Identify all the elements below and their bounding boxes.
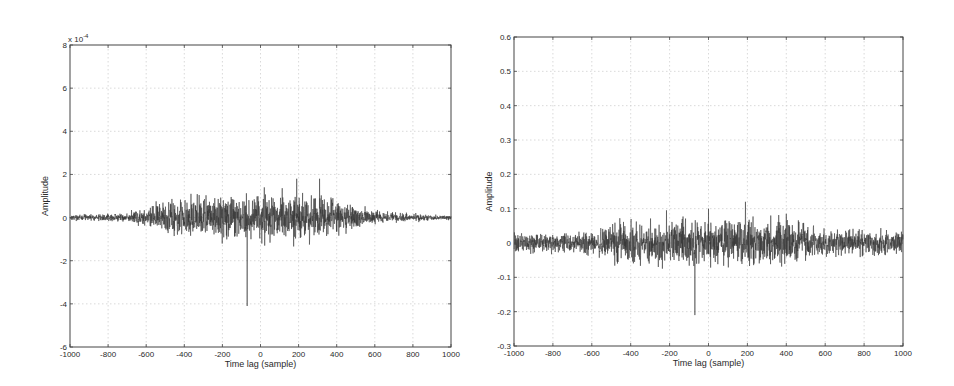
right-x-axis-label: Time lag (sample) — [673, 358, 745, 368]
x-tick-label: 0 — [258, 350, 263, 359]
x-tick-label: -400 — [623, 349, 640, 358]
x-tick-label: 0 — [706, 349, 711, 358]
x-tick-label: -200 — [662, 349, 679, 358]
y-tick-label: 0.2 — [500, 170, 512, 179]
y-tick-label: 6 — [63, 84, 68, 93]
left-plot: -1000-800-600-400-20002004006008001000-6… — [40, 33, 460, 369]
x-tick-label: -600 — [584, 349, 601, 358]
y-tick-label: 2 — [63, 170, 68, 179]
x-tick-label: -200 — [214, 350, 231, 359]
figure-canvas: -1000-800-600-400-20002004006008001000-6… — [0, 0, 954, 386]
right-axes-box — [514, 37, 903, 346]
y-tick-label: -0.2 — [497, 308, 511, 317]
x-tick-label: 200 — [741, 349, 755, 358]
y-tick-label: 0.3 — [500, 136, 512, 145]
left-grid — [70, 45, 451, 347]
x-tick-label: 400 — [330, 350, 344, 359]
y-tick-label: 0.1 — [500, 205, 512, 214]
y-tick-label: -0.1 — [497, 273, 511, 282]
y-tick-label: 0 — [63, 214, 68, 223]
x-tick-label: 1000 — [894, 349, 912, 358]
x-tick-label: 800 — [857, 349, 871, 358]
y-tick-label: -6 — [60, 343, 68, 352]
y-tick-label: 0.4 — [500, 102, 512, 111]
left-y-axis-label: Amplitude — [40, 176, 50, 216]
right-y-axis-label: Amplitude — [484, 171, 494, 211]
left-scale-factor: x 10-4 — [68, 33, 89, 44]
x-tick-label: -400 — [176, 350, 193, 359]
y-tick-label: -2 — [60, 257, 68, 266]
right-ticks: -1000-800-600-400-20002004006008001000-0… — [497, 33, 912, 358]
x-tick-label: 600 — [368, 350, 382, 359]
y-tick-label: 4 — [63, 127, 68, 136]
x-tick-label: 600 — [819, 349, 833, 358]
x-tick-label: 400 — [780, 349, 794, 358]
x-tick-label: 800 — [406, 350, 420, 359]
x-tick-label: 1000 — [442, 350, 460, 359]
right-plot: -1000-800-600-400-20002004006008001000-0… — [484, 33, 912, 368]
x-tick-label: -600 — [138, 350, 155, 359]
y-tick-label: 8 — [63, 41, 68, 50]
x-tick-label: 200 — [292, 350, 306, 359]
y-tick-label: 0.6 — [500, 33, 512, 42]
x-tick-label: -800 — [545, 349, 562, 358]
y-tick-label: 0.5 — [500, 67, 512, 76]
x-tick-label: -800 — [100, 350, 117, 359]
y-tick-label: -0.3 — [497, 342, 511, 351]
y-tick-label: 0 — [507, 239, 512, 248]
left-ticks: -1000-800-600-400-20002004006008001000-6… — [60, 41, 461, 359]
right-grid — [514, 37, 903, 346]
y-tick-label: -4 — [60, 300, 68, 309]
left-x-axis-label: Time lag (sample) — [225, 359, 297, 369]
